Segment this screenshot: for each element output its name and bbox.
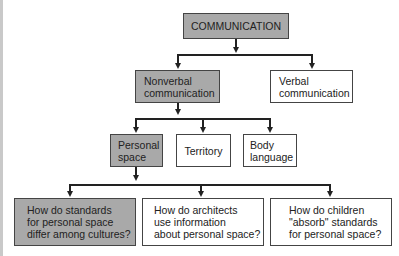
node-communication: COMMUNICATION <box>183 13 289 39</box>
connector <box>177 54 313 56</box>
node-label: Body language <box>250 139 293 163</box>
node-territory: Territory <box>176 134 231 167</box>
node-question-cultures: How do standards for personal space diff… <box>14 198 136 246</box>
arrow-icon <box>67 191 73 197</box>
node-personal-space: Personal space <box>110 134 163 167</box>
arrow-icon <box>233 47 239 53</box>
arrow-icon <box>309 63 315 69</box>
arrow-icon <box>327 191 333 197</box>
node-body-language: Body language <box>243 134 297 167</box>
arrow-icon <box>133 127 139 133</box>
arrow-icon <box>200 127 206 133</box>
node-label: COMMUNICATION <box>191 20 281 32</box>
node-verbal-communication: Verbal communication <box>270 70 353 103</box>
arrow-icon <box>175 109 181 115</box>
node-nonverbal-communication: Nonverbal communication <box>135 70 220 103</box>
left-edge-strip <box>0 0 3 256</box>
node-question-architects: How do architects use information about … <box>142 198 264 246</box>
node-label: How do standards for personal space diff… <box>27 204 131 240</box>
arrow-icon <box>133 175 139 181</box>
arrow-icon <box>198 191 204 197</box>
node-label: Personal space <box>118 139 159 163</box>
node-label: How do children "absorb" standards for p… <box>289 204 381 240</box>
node-label: How do architects use information about … <box>154 204 260 240</box>
node-question-children: How do children "absorb" standards for p… <box>270 198 392 246</box>
node-label: Territory <box>185 145 223 157</box>
arrow-icon <box>267 127 273 133</box>
arrow-icon <box>175 63 181 69</box>
node-label: Nonverbal communication <box>144 75 215 99</box>
node-label: Verbal communication <box>279 75 350 99</box>
